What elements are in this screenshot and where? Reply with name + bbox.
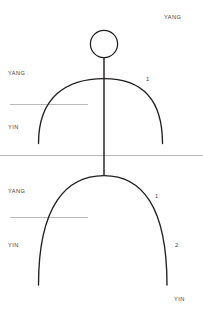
label-upper-left-yang: YANG (8, 71, 25, 77)
diagram-canvas (0, 0, 203, 317)
label-bottom-right-yin: YIN (174, 297, 185, 303)
label-lower-left-yang: YANG (8, 189, 25, 195)
head-circle (90, 30, 117, 57)
label-lower-right-two: 2 (175, 243, 178, 249)
label-lower-right-one: 1 (155, 194, 158, 200)
label-upper-left-yin: YIN (8, 125, 19, 131)
upper-arc (39, 79, 163, 144)
label-upper-right-one: 1 (146, 77, 149, 83)
lower-arc (39, 176, 168, 285)
label-lower-left-yin: YIN (8, 243, 19, 249)
label-top-right-yang: YANG (164, 15, 181, 21)
